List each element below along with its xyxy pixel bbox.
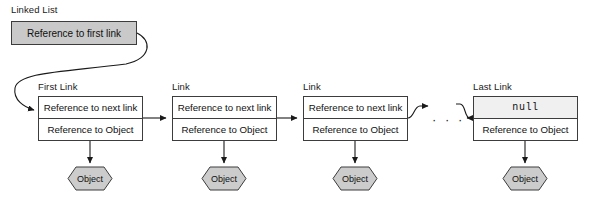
object-node-3-label: Object (342, 174, 368, 184)
node-link-2-data-cell: Reference to Object (173, 119, 276, 141)
object-node-1: Object (67, 166, 113, 191)
node-caption-link-3: Link (303, 81, 321, 92)
node-link-3-data-cell: Reference to Object (304, 119, 407, 141)
node-link-2: Reference to next link Reference to Obje… (172, 96, 277, 141)
object-node-4: Object (502, 166, 548, 191)
object-node-3: Object (332, 166, 378, 191)
node-last-link-data-cell: Reference to Object (474, 119, 577, 141)
node-caption-first-link: First Link (38, 81, 78, 92)
linked-list-diagram: Linked List Reference to first link Firs… (0, 0, 590, 204)
node-first-link-data-cell: Reference to Object (39, 119, 142, 141)
node-caption-last-link: Last Link (473, 81, 512, 92)
node-first-link-next-cell: Reference to next link (39, 97, 142, 119)
object-node-2: Object (201, 166, 247, 191)
diagram-title: Linked List (11, 4, 58, 15)
node-caption-link-2: Link (172, 81, 190, 92)
node-first-link: Reference to next link Reference to Obje… (38, 96, 143, 141)
node-link-3-next-cell: Reference to next link (304, 97, 407, 119)
link-arrow-3-to-ellipsis (408, 106, 428, 118)
ellipsis-label: · · · (432, 112, 465, 127)
node-last-link-null-cell: null (474, 97, 577, 119)
object-node-4-label: Object (512, 174, 538, 184)
node-last-link: null Reference to Object (473, 96, 578, 141)
object-node-2-label: Object (211, 174, 237, 184)
node-link-2-next-cell: Reference to next link (173, 97, 276, 119)
head-reference-box: Reference to first link (11, 21, 137, 45)
object-node-1-label: Object (77, 174, 103, 184)
node-link-3: Reference to next link Reference to Obje… (303, 96, 408, 141)
head-reference-label: Reference to first link (27, 28, 121, 39)
